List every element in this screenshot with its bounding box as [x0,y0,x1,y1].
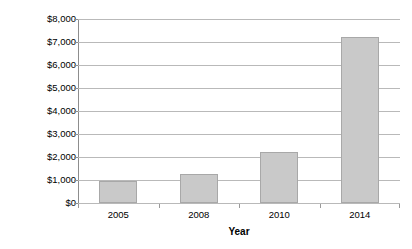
x-axis-tick-mark [159,204,160,208]
bar [260,152,298,203]
y-axis-tick-label: $8,000 [28,14,76,24]
y-axis-tick-mark [74,42,78,43]
y-axis-tick-mark [74,88,78,89]
x-axis-tick-label: 2010 [249,209,309,220]
x-axis-tick-mark [399,204,400,208]
y-axis-tick-mark [74,65,78,66]
y-axis-tick-label: $5,000 [28,83,76,93]
plot-area [78,19,400,204]
y-axis-tick-mark [74,157,78,158]
x-axis-tick-mark [320,204,321,208]
y-axis-tick-mark [74,134,78,135]
y-axis-tick-labels: $8,000$7,000$6,000$5,000$4,000$3,000$2,0… [28,12,76,212]
bar [99,181,137,203]
bar [180,174,218,203]
x-axis-tick-mark [239,204,240,208]
x-axis-tick-labels: 2005200820102014 [78,209,400,223]
y-axis-tick-mark [74,111,78,112]
y-axis-tick-mark [74,180,78,181]
x-axis-tick-mark [78,204,79,208]
y-axis-tick-label: $3,000 [28,129,76,139]
x-axis-tick-label: 2005 [88,209,148,220]
y-axis-tick-label: $6,000 [28,60,76,70]
x-axis-title: Year [78,226,400,237]
x-axis-tick-label: 2014 [330,209,390,220]
y-axis-tick-mark [74,19,78,20]
bar-chart: $/kg TN $8,000$7,000$6,000$5,000$4,000$3… [0,0,412,249]
y-axis-tick-label: $2,000 [28,152,76,162]
bar [341,37,379,203]
y-axis-tick-label: $7,000 [28,37,76,47]
y-axis-tick-label: $4,000 [28,106,76,116]
y-axis-tick-label: $0 [28,198,76,208]
gridline [78,19,400,20]
y-axis-tick-label: $1,000 [28,175,76,185]
x-axis-tick-label: 2008 [169,209,229,220]
